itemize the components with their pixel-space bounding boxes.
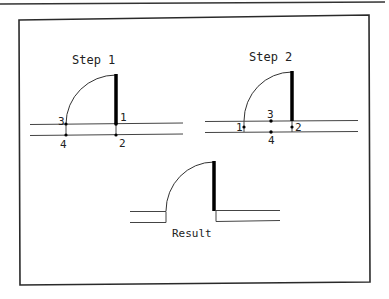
step1-label-2: 2 bbox=[119, 137, 126, 150]
result-wall-right-lower bbox=[216, 221, 280, 222]
step2-label-4: 4 bbox=[268, 134, 275, 147]
step2-label-2: 2 bbox=[295, 121, 302, 134]
step2-point-2 bbox=[290, 125, 293, 128]
page-top-rule bbox=[0, 2, 385, 4]
result-swing-arc bbox=[166, 162, 214, 211]
step2-label-1: 1 bbox=[236, 121, 243, 134]
step1-point-4 bbox=[64, 133, 67, 136]
step1-point-2 bbox=[114, 133, 117, 136]
step1-wall-lower bbox=[30, 134, 183, 136]
step1-point-1 bbox=[114, 122, 118, 126]
step1-label-4: 4 bbox=[60, 138, 67, 151]
step2-wall-upper bbox=[205, 121, 358, 122]
step1-label-3: 3 bbox=[58, 115, 65, 128]
panel-step1: Step 1 1 2 3 4 bbox=[30, 53, 183, 151]
step2-point-1 bbox=[242, 125, 245, 128]
step1-swing-arc bbox=[66, 75, 116, 124]
step1-point-3 bbox=[64, 122, 67, 125]
result-title: Result bbox=[172, 227, 212, 240]
step2-label-3: 3 bbox=[267, 108, 274, 121]
panel-step2: Step 2 1 2 3 4 bbox=[205, 50, 358, 147]
step2-wall-lower bbox=[205, 132, 358, 133]
step1-title: Step 1 bbox=[72, 53, 115, 67]
step2-title: Step 2 bbox=[249, 50, 292, 64]
step1-wall-upper bbox=[30, 123, 183, 125]
step1-label-1: 1 bbox=[120, 111, 127, 124]
panel-result: Result bbox=[130, 161, 280, 240]
door-diagram: Step 1 1 2 3 4 Step 2 1 2 3 4 bbox=[0, 0, 389, 299]
